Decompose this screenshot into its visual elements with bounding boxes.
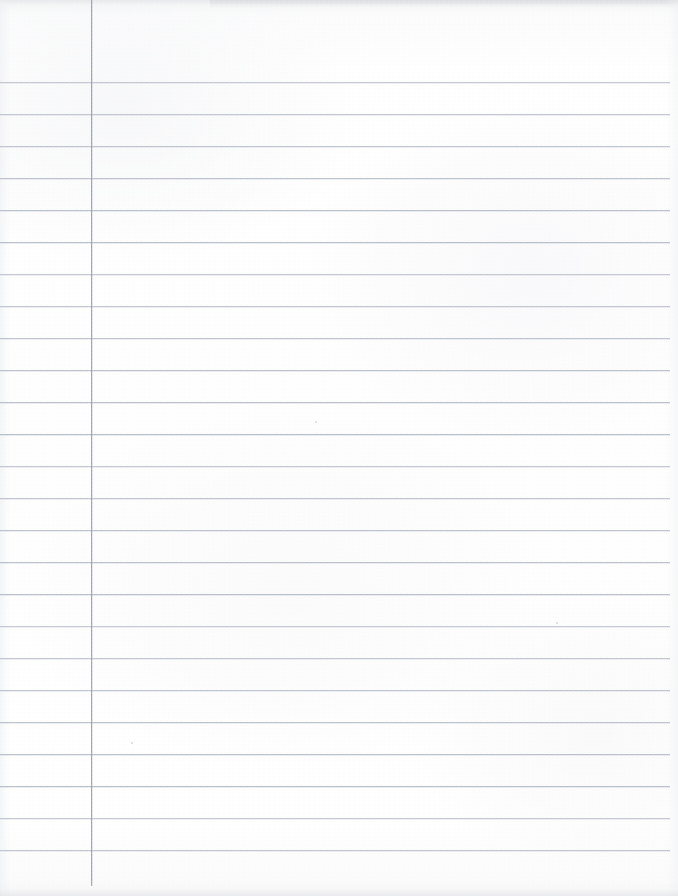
rule-line xyxy=(0,274,670,275)
rule-line xyxy=(0,370,670,371)
margin-line xyxy=(91,0,92,886)
rule-line xyxy=(0,754,670,755)
paper-background xyxy=(0,0,678,896)
rule-line xyxy=(0,82,670,83)
scan-speck xyxy=(131,742,133,744)
rule-line xyxy=(0,242,670,243)
rule-line xyxy=(0,658,670,659)
rule-line xyxy=(0,626,670,627)
rule-line xyxy=(0,146,670,147)
rule-line xyxy=(0,690,670,691)
rule-line xyxy=(0,434,670,435)
scan-edge-shadow-bottom xyxy=(0,880,678,896)
rule-line xyxy=(0,818,670,819)
rule-line xyxy=(0,850,670,851)
rule-line xyxy=(0,402,670,403)
rule-line xyxy=(0,562,670,563)
scan-speck xyxy=(315,421,317,423)
rule-line xyxy=(0,210,670,211)
rule-line xyxy=(0,466,670,467)
rule-line xyxy=(0,786,670,787)
rule-line xyxy=(0,722,670,723)
rule-line xyxy=(0,498,670,499)
rule-line xyxy=(0,338,670,339)
notebook-page xyxy=(0,0,678,896)
rule-line xyxy=(0,178,670,179)
scan-edge-shadow-right xyxy=(666,0,678,896)
rule-line xyxy=(0,530,670,531)
rule-line xyxy=(0,594,670,595)
scan-speck xyxy=(556,622,558,624)
scan-edge-shadow-left xyxy=(0,0,10,896)
scan-edge-smudge-top xyxy=(210,0,678,8)
rule-line xyxy=(0,114,670,115)
rule-line xyxy=(0,306,670,307)
